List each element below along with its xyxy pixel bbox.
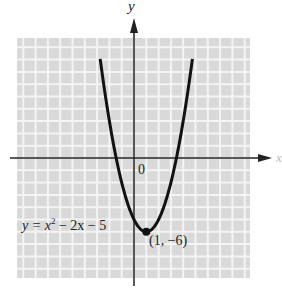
origin-label: 0	[138, 162, 145, 178]
y-axis-label: y	[128, 0, 135, 15]
x-axis-label: x	[276, 150, 282, 166]
parabola-graph	[0, 0, 282, 293]
equation-label: y = x2 − 2x − 5	[22, 216, 106, 234]
equation-prefix: y = x	[22, 218, 51, 233]
vertex-label: (1, −6)	[149, 233, 187, 249]
equation-suffix: − 2x − 5	[55, 218, 106, 233]
